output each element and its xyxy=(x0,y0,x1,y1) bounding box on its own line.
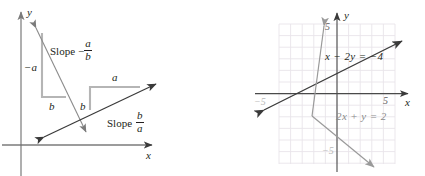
line-2x-plus-y-lower xyxy=(312,116,374,167)
slope-label-negative: Slope−ab xyxy=(50,38,92,62)
left-panel-svg xyxy=(0,0,213,176)
right-x-axis-label: x xyxy=(405,97,410,108)
slope-fraction-2: ba xyxy=(136,110,144,134)
label-a-right: a xyxy=(112,72,118,83)
slope-word-1: Slope xyxy=(50,45,75,57)
right-y-axis-label: y xyxy=(344,10,349,21)
left-y-axis-label: y xyxy=(27,7,32,18)
slope-word-2: Slope xyxy=(107,117,132,129)
y-tick-positive-5: 5 xyxy=(325,22,330,32)
label-b-left: b xyxy=(49,101,55,112)
slope-numerator-1: a xyxy=(84,38,92,51)
x-tick-negative-5: −5 xyxy=(254,97,266,107)
slope-label-positive: Slopeba xyxy=(107,110,144,134)
label-neg-a: −a xyxy=(24,62,37,73)
equation-label-2x-plus-y: 2x + y = 2 xyxy=(336,111,387,122)
slope-sign-1: − xyxy=(75,45,84,57)
slope-denominator-2: a xyxy=(136,123,144,135)
y-tick-negative-5: −5 xyxy=(322,146,334,156)
slope-fraction-1: ab xyxy=(84,38,92,62)
positive-slope-step xyxy=(90,87,140,110)
x-tick-positive-5: 5 xyxy=(383,96,388,106)
left-axes xyxy=(2,12,152,176)
figure-root: y x −a b b a Slope−ab Slopeba xyxy=(0,0,425,176)
label-b-right: b xyxy=(80,101,86,112)
panel-slope-illustration: y x −a b b a Slope−ab Slopeba xyxy=(0,0,213,176)
right-panel-svg xyxy=(212,0,425,176)
left-x-axis-label: x xyxy=(146,150,151,161)
equation-label-x-minus-2y: x − 2y = −4 xyxy=(325,51,383,62)
panel-system-graph: y x 5 −5 −5 5 x − 2y = −4 2x + y = 2 xyxy=(212,0,425,176)
slope-numerator-2: b xyxy=(136,110,144,123)
slope-denominator-1: b xyxy=(84,51,92,63)
